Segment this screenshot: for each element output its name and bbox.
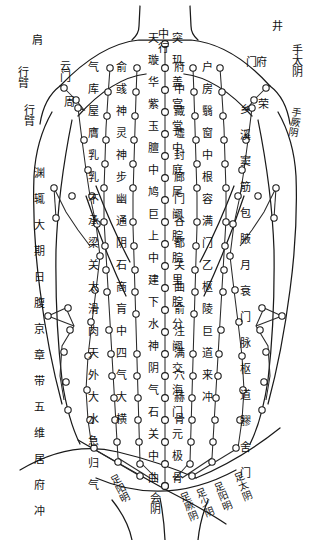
acupoint-label-center: 尾 — [172, 188, 183, 199]
acupoint-char: 肉 — [88, 326, 99, 337]
acupoint-char: 章 — [34, 350, 45, 361]
acupoint-char: 包 — [240, 208, 251, 219]
acupoint-char: 水 — [88, 414, 99, 425]
acupoint-char: 道 — [202, 348, 213, 359]
acupoint-label-center: 中 — [172, 144, 183, 155]
acupoint-char: 商 — [116, 282, 127, 293]
label-arm-lower: 行臂 — [22, 104, 33, 126]
acupoint-label-center: 鸠 — [148, 188, 159, 199]
acupoint-label-center: 交 — [172, 364, 183, 375]
acupoint-label-center: 中 — [148, 166, 159, 177]
acupuncture-chart: .bodyline{fill:none;stroke:#1a1a1a;strok… — [0, 0, 330, 540]
acupoint-label-center: 巨 — [148, 210, 159, 221]
acupoint-label-center: 玑 — [172, 56, 183, 67]
acupoint-label-center: 曲 — [148, 474, 159, 485]
acupoint-char: 梁 — [88, 238, 99, 249]
acupoint-label-center: 关 — [148, 430, 159, 441]
acupoint-label-center: 阙 — [172, 342, 183, 353]
acupoint-char: 门 — [240, 312, 251, 323]
acupoint-char: 渊 — [34, 168, 45, 179]
acupoint-char: 气 — [88, 480, 99, 491]
acupoint-char: 气 — [116, 370, 127, 381]
acupoint-label-center: 紫 — [148, 100, 159, 111]
acupoint-char: 陵 — [202, 304, 213, 315]
label-menfu-b: 府 — [254, 56, 265, 67]
acupoint-label-center: 脘 — [172, 298, 183, 309]
label-arm-upper: 行臂 — [16, 66, 27, 88]
acupoint-label-center: 宫 — [172, 100, 183, 111]
acupoint-label-center: 气 — [148, 386, 159, 397]
label-shoulder: 肩 — [32, 36, 43, 47]
acupoint-char: 幽 — [116, 194, 127, 205]
acupoint-char: 府 — [34, 480, 45, 491]
acupoint-char: 枢 — [202, 282, 213, 293]
acupoint-char: 气 — [88, 62, 99, 73]
acupoint-char: 大 — [88, 392, 99, 403]
acupoint-char: 来 — [202, 370, 213, 381]
acupoint-char: 阴 — [116, 238, 127, 249]
acupoint-char: 乙 — [202, 260, 213, 271]
acupoint-char: 天 — [88, 348, 99, 359]
acupoint-char: 衰 — [240, 286, 251, 297]
acupoint-char: 根 — [202, 172, 213, 183]
acupoint-label-center: 脘 — [172, 254, 183, 265]
acupoint-char: 中 — [116, 326, 127, 337]
acupoint-char: 外 — [88, 370, 99, 381]
acupoint-char: 关 — [88, 260, 99, 271]
acupoint-label-center: 堂 — [172, 122, 183, 133]
label-huiyin: 会阴 — [148, 492, 159, 514]
acupoint-char: 冲 — [34, 506, 45, 517]
label-zhourong: 周 — [62, 96, 73, 107]
acupoint-char: 维 — [34, 428, 45, 439]
meridian-kidney-right — [190, 68, 197, 462]
acupoint-char: 带 — [34, 376, 45, 387]
acupoint-char: 满 — [202, 216, 213, 227]
acupoint-char: 不 — [88, 194, 99, 205]
acupoint-label-center: 中 — [148, 452, 159, 463]
acupoint-char: 四 — [116, 348, 127, 359]
acupoint-label-center: 天 — [148, 34, 159, 45]
acupoint-char: 神 — [116, 150, 127, 161]
label-shou-taiyin: 手太阴 — [290, 44, 301, 77]
acupoint-char: 腹 — [34, 298, 45, 309]
label-yunmen: 云门 — [58, 60, 69, 82]
acupoint-label-center: 下 — [148, 298, 159, 309]
acupoint-label-center: 元 — [172, 430, 183, 441]
acupoint-char: 中 — [202, 150, 213, 161]
acupoint-label-center: 突 — [172, 34, 183, 45]
acupoint-char: 太 — [88, 282, 99, 293]
acupoint-char: 窗 — [202, 128, 213, 139]
acupoint-label-center: 阴 — [148, 364, 159, 375]
acupoint-label-center: 建 — [148, 276, 159, 287]
acupoint-char: 石 — [116, 260, 127, 271]
acupoint-char: 日 — [34, 272, 45, 283]
acupoint-label-center: 极 — [172, 452, 183, 463]
acupoint-char: 巨 — [202, 326, 213, 337]
acupoint-char: 窦 — [240, 156, 251, 167]
acupoint-char: 彧 — [116, 84, 127, 95]
acupoint-char: 神 — [116, 106, 127, 117]
acupoint-char: 库 — [88, 84, 99, 95]
label-jing: 井 — [272, 22, 283, 33]
acupoint-label-center: 阙 — [172, 210, 183, 221]
acupoint-char: 户 — [202, 62, 213, 73]
acupoint-char: 舍 — [240, 442, 251, 453]
acupoint-label-center: 玉 — [148, 122, 159, 133]
acupoint-label-center: 中 — [148, 254, 159, 265]
acupoint-char: 月 — [240, 260, 251, 271]
acupoint-char: 腋 — [240, 234, 251, 245]
label-rong: 荣 — [256, 98, 267, 109]
acupoint-char: 膺 — [88, 128, 99, 139]
acupoint-char: 京 — [34, 324, 45, 335]
acupoint-label-center: 里 — [172, 276, 183, 287]
acupoint-char: 道 — [240, 390, 251, 401]
body-outline-and-meridians: .bodyline{fill:none;stroke:#1a1a1a;strok… — [0, 0, 330, 540]
acupoint-char: 期 — [34, 246, 45, 257]
acupoint-label-center: 石 — [148, 408, 159, 419]
acupoint-char: 翳 — [202, 106, 213, 117]
acupoint-char: 门 — [202, 238, 213, 249]
acupoint-label-center: 盖 — [172, 78, 183, 89]
acupoint-char: 滑 — [88, 304, 99, 315]
acupoint-char: 房 — [202, 84, 213, 95]
acupoint-char: 枢 — [240, 364, 251, 375]
